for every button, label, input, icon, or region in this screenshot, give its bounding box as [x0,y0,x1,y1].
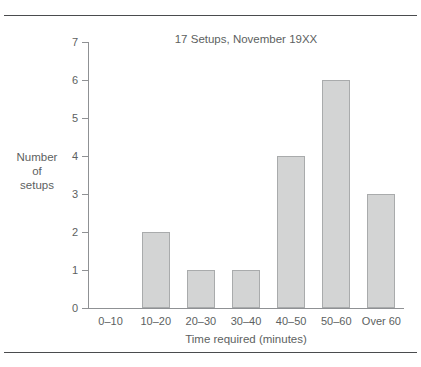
x-tick-label-6: Over 60 [359,315,404,327]
x-tick-label-2: 20–30 [178,315,223,327]
y-tick-7 [82,42,88,43]
x-tick-label-5: 50–60 [314,315,359,327]
figure-container: 17 Setups, November 19XX 0 1 2 3 4 5 6 7… [0,0,421,367]
y-tick-label-1: 1 [54,265,78,276]
y-axis-title-line-3: setups [6,178,68,192]
bar-5 [322,80,350,308]
y-tick-label-6: 6 [54,75,78,86]
x-tick-label-1: 10–20 [133,315,178,327]
x-tick-label-4: 40–50 [269,315,314,327]
y-axis-title-line-2: of [6,164,68,178]
x-axis-line [88,308,404,309]
y-axis-title: Number of setups [6,150,68,192]
y-tick-label-2: 2 [54,227,78,238]
y-tick-0 [82,308,88,309]
bar-3 [232,270,260,308]
bar-6 [367,194,395,308]
y-tick-1 [82,270,88,271]
y-axis-line [88,42,89,309]
bar-1 [142,232,170,308]
histogram-plot-area: 17 Setups, November 19XX 0 1 2 3 4 5 6 7… [0,0,421,367]
x-axis-title: Time required (minutes) [88,333,404,346]
y-axis-title-line-1: Number [6,150,68,164]
y-tick-2 [82,232,88,233]
y-tick-label-5: 5 [54,113,78,124]
y-tick-label-7: 7 [54,37,78,48]
y-tick-label-0: 0 [54,303,78,314]
y-tick-4 [82,156,88,157]
x-tick-label-0: 0–10 [88,315,133,327]
bar-4 [277,156,305,308]
x-tick-label-3: 30–40 [223,315,268,327]
y-tick-6 [82,80,88,81]
bar-2 [187,270,215,308]
chart-title: 17 Setups, November 19XX [88,33,404,46]
y-tick-3 [82,194,88,195]
y-tick-5 [82,118,88,119]
